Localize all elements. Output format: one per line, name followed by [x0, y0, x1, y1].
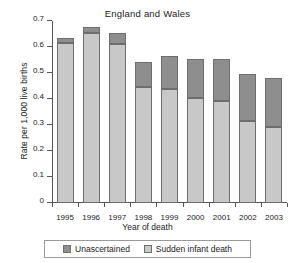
legend-entry-unascertained[interactable]: Unascertained — [63, 244, 130, 254]
y-tick-label: 0.6 — [33, 40, 44, 49]
bar-1996[interactable] — [83, 27, 100, 203]
x-tick-label-2001: 2001 — [213, 213, 231, 222]
bar-segment-unascertained — [265, 78, 282, 127]
bar-2002[interactable] — [239, 74, 256, 203]
x-tick-label-1997: 1997 — [108, 213, 126, 222]
x-tick — [261, 203, 262, 207]
y-axis-line — [52, 21, 53, 203]
x-tick-label-2000: 2000 — [187, 213, 205, 222]
bar-1995[interactable] — [57, 38, 74, 203]
y-tick-label: 0.5 — [33, 66, 44, 75]
y-tick: 0.3 — [47, 124, 52, 125]
legend-label-sudden-infant-death: Sudden infant death — [156, 244, 232, 254]
y-tick-label: 0.2 — [33, 144, 44, 153]
bar-segment-unascertained — [135, 62, 152, 86]
y-tick-label: 0.4 — [33, 92, 44, 101]
bar-segment-unascertained — [83, 27, 100, 33]
x-tick-label-2003: 2003 — [265, 213, 283, 222]
legend-swatch-unascertained — [63, 245, 71, 253]
x-tick — [235, 203, 236, 207]
bar-segment-unascertained — [187, 59, 204, 97]
bar-segment-sudden-infant-death — [109, 44, 126, 203]
x-tick — [209, 203, 210, 207]
x-tick — [52, 203, 53, 207]
bar-segment-unascertained — [57, 38, 74, 43]
bar-1999[interactable] — [161, 56, 178, 203]
legend-swatch-sudden-infant-death — [144, 245, 152, 253]
bar-1998[interactable] — [135, 62, 152, 203]
x-tick-label-1995: 1995 — [56, 213, 74, 222]
legend-label-unascertained: Unascertained — [75, 244, 130, 254]
y-tick-label: 0.1 — [33, 170, 44, 179]
bar-segment-sudden-infant-death — [239, 121, 256, 203]
x-tick — [104, 203, 105, 207]
bar-segment-sudden-infant-death — [83, 33, 100, 203]
chart-figure: England and Wales Rate per 1,000 live bi… — [0, 0, 295, 263]
bar-2003[interactable] — [265, 78, 282, 203]
x-tick-label-1996: 1996 — [82, 213, 100, 222]
y-tick: 0.1 — [47, 176, 52, 177]
bar-segment-unascertained — [161, 56, 178, 90]
bar-segment-sudden-infant-death — [213, 101, 230, 203]
y-tick: 0.4 — [47, 98, 52, 99]
bar-segment-unascertained — [213, 59, 230, 101]
y-tick: 0.5 — [47, 72, 52, 73]
x-tick-label-1998: 1998 — [134, 213, 152, 222]
chart-legend: UnascertainedSudden infant death — [44, 240, 251, 258]
y-tick-label: 0 — [40, 196, 44, 205]
x-tick-label-1999: 1999 — [161, 213, 179, 222]
x-tick — [130, 203, 131, 207]
chart-title: England and Wales — [0, 8, 295, 19]
bar-segment-sudden-infant-death — [135, 87, 152, 203]
y-tick: 0.7 — [47, 20, 52, 21]
bar-1997[interactable] — [109, 33, 126, 203]
x-tick — [78, 203, 79, 207]
bar-segment-sudden-infant-death — [187, 98, 204, 203]
y-axis-label: Rate per 1,000 live births — [19, 31, 29, 191]
bar-2001[interactable] — [213, 59, 230, 203]
x-tick — [156, 203, 157, 207]
bar-segment-unascertained — [239, 74, 256, 121]
bar-segment-sudden-infant-death — [57, 43, 74, 203]
bar-segment-sudden-infant-death — [265, 127, 282, 203]
bar-segment-sudden-infant-death — [161, 89, 178, 203]
x-tick — [287, 203, 288, 207]
bar-2000[interactable] — [187, 59, 204, 203]
y-tick: 0.2 — [47, 150, 52, 151]
x-tick-label-2002: 2002 — [239, 213, 257, 222]
x-axis-label: Year of death — [0, 222, 295, 232]
y-tick: 0.6 — [47, 46, 52, 47]
bar-segment-unascertained — [109, 33, 126, 44]
plot-area: 00.10.20.30.40.50.60.7 19951996199719981… — [52, 21, 287, 203]
x-tick — [183, 203, 184, 207]
y-tick-label: 0.3 — [33, 118, 44, 127]
legend-entry-sudden-infant-death[interactable]: Sudden infant death — [144, 244, 232, 254]
y-tick-label: 0.7 — [33, 14, 44, 23]
